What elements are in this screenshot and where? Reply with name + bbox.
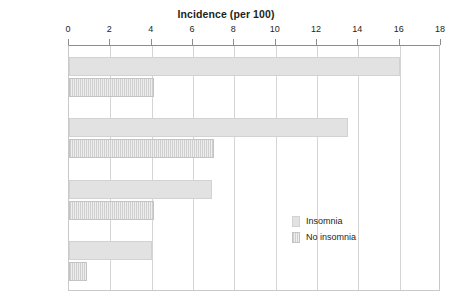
legend-swatch-icon <box>292 216 300 227</box>
bar-alcohol-abuse-insomnia <box>69 180 212 199</box>
gridline <box>317 46 318 290</box>
legend-item-insomnia[interactable]: Insomnia <box>292 213 356 229</box>
bar-alcohol-abuse-no-insomnia <box>69 201 154 220</box>
legend-label: No insomnia <box>306 232 356 242</box>
x-tick-label: 2 <box>107 24 112 34</box>
bar-anxiety-no-insomnia <box>69 139 214 158</box>
chart-title: Incidence (per 100) <box>0 8 452 20</box>
bar-drug-abuse-insomnia <box>69 241 152 260</box>
gridline <box>193 46 194 290</box>
x-tick-label: 14 <box>352 24 362 34</box>
chart-container: Incidence (per 100) 024681012141618 Depr… <box>0 0 452 305</box>
legend-item-no-insomnia[interactable]: No insomnia <box>292 229 356 245</box>
legend-swatch-icon <box>292 232 300 243</box>
bar-depression-no-insomnia <box>69 78 154 97</box>
legend-label: Insomnia <box>306 216 343 226</box>
x-tick-label: 12 <box>311 24 321 34</box>
gridline <box>358 46 359 290</box>
gridline <box>276 46 277 290</box>
bar-anxiety-insomnia <box>69 118 348 137</box>
x-tick-label: 4 <box>148 24 153 34</box>
x-tick-label: 8 <box>231 24 236 34</box>
x-tick-mark <box>440 39 441 45</box>
x-tick-label: 6 <box>189 24 194 34</box>
x-tick-label: 16 <box>394 24 404 34</box>
plot-area <box>68 45 440 291</box>
x-tick-label: 0 <box>65 24 70 34</box>
gridline <box>400 46 401 290</box>
bar-depression-insomnia <box>69 57 400 76</box>
x-tick-label: 18 <box>435 24 445 34</box>
gridline <box>234 46 235 290</box>
bar-drug-abuse-no-insomnia <box>69 262 87 281</box>
legend: InsomniaNo insomnia <box>292 213 356 245</box>
x-tick-label: 10 <box>270 24 280 34</box>
